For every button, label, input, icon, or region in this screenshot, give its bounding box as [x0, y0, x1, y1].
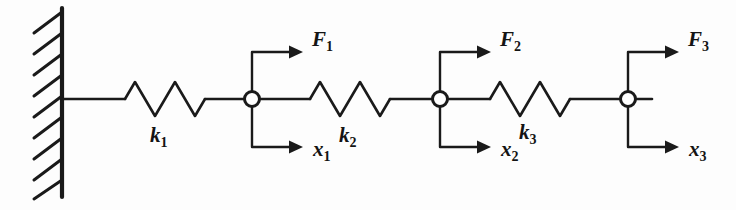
- force-3-arrowhead: [665, 46, 679, 59]
- fixed-support-wall: [34, 8, 62, 199]
- displacement-3-arrowhead: [665, 141, 679, 154]
- displacement-1-arrowhead: [289, 141, 303, 154]
- spring-k2: [310, 82, 390, 116]
- force-2-label: F2: [499, 27, 521, 54]
- spring-chain-diagram: k1 k2 k3 F1 x1: [0, 0, 736, 210]
- node-1-displacement-lead: [252, 99, 303, 154]
- node-1-force-lead: [252, 46, 303, 100]
- force-2-arrowhead: [477, 46, 491, 59]
- node-2-displacement-lead: [440, 99, 491, 154]
- spring-k2-label: k2: [339, 123, 357, 150]
- wall-hatching: [34, 12, 62, 199]
- displacement-3-label: x3: [688, 137, 707, 164]
- spring-k3-coil: [490, 82, 570, 116]
- spring-k1-coil: [125, 82, 205, 116]
- force-3-label: F3: [687, 27, 709, 54]
- mass-node-2: [433, 92, 448, 107]
- node-3-force-lead: [628, 46, 679, 100]
- displacement-1-label: x1: [312, 137, 331, 164]
- spring-k3-label: k3: [519, 120, 537, 147]
- spring-k1: [125, 82, 205, 116]
- force-1-arrowhead: [289, 46, 303, 59]
- displacement-2-arrowhead: [477, 141, 491, 154]
- mass-node-3: [621, 92, 636, 107]
- diagram-canvas: k1 k2 k3 F1 x1: [0, 0, 736, 210]
- mass-node-1: [245, 92, 260, 107]
- spring-k1-label: k1: [150, 123, 168, 150]
- displacement-2-label: x2: [500, 137, 519, 164]
- spring-k3: [490, 82, 570, 116]
- spring-k2-coil: [310, 82, 390, 116]
- force-1-label: F1: [311, 27, 333, 54]
- node-2-force-lead: [440, 46, 491, 100]
- node-3-displacement-lead: [628, 99, 679, 154]
